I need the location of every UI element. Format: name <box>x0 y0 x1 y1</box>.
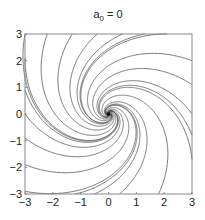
y-tick-label: 2 <box>16 55 22 67</box>
y-tick-label: 0 <box>16 108 22 120</box>
y-tick-label: −1 <box>9 135 22 147</box>
x-tick-label: 0 <box>105 196 111 208</box>
trajectory-line <box>99 87 192 159</box>
x-tick-label: 3 <box>189 196 195 208</box>
y-axis-ticks: −3−2−10123 <box>9 28 27 200</box>
x-tick-label: 1 <box>133 196 139 208</box>
trajectory-lines <box>23 34 192 194</box>
y-tick-label: −2 <box>9 161 22 173</box>
y-tick-label: 3 <box>16 28 22 40</box>
chart-title: a0 = 0 <box>93 8 122 23</box>
phase-portrait-figure: a0 = 0 −3−2−10123 −3−2−10123 <box>0 0 205 220</box>
chart-svg: a0 = 0 −3−2−10123 −3−2−10123 <box>0 0 205 220</box>
trajectory-line <box>41 34 116 135</box>
x-tick-label: −1 <box>74 196 87 208</box>
y-tick-label: 1 <box>16 81 22 93</box>
trajectory-line <box>23 34 118 141</box>
trajectory-line <box>88 53 192 120</box>
y-tick-label: −3 <box>9 188 22 200</box>
plot-axes-box <box>25 34 192 194</box>
x-tick-label: −2 <box>47 196 60 208</box>
x-tick-label: 2 <box>161 196 167 208</box>
